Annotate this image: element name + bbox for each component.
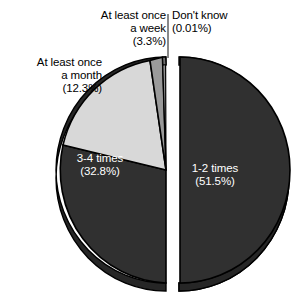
label-value: (0.01%) bbox=[172, 22, 282, 35]
label-at-least-once-a-month: At least once a month (12.3%) bbox=[6, 56, 102, 96]
label-value: (12.3%) bbox=[6, 82, 102, 95]
slice-top-bevel bbox=[163, 57, 167, 65]
label-line: a week bbox=[82, 22, 166, 35]
label-at-least-once-a-week: At least once a week (3.3%) bbox=[82, 9, 166, 49]
label-line: 3-4 times bbox=[42, 152, 158, 165]
label-line: Don't know bbox=[172, 9, 282, 22]
label-value: (32.8%) bbox=[42, 165, 158, 178]
label-value: (3.3%) bbox=[82, 35, 166, 48]
label-dont-know: Don't know (0.01%) bbox=[172, 9, 282, 35]
label-one-two-times: 1-2 times (51.5%) bbox=[160, 162, 270, 188]
label-line: At least once bbox=[6, 56, 102, 69]
label-line: At least once bbox=[82, 9, 166, 22]
label-line: a month bbox=[6, 69, 102, 82]
pie-chart: At least once a month (12.3%) At least o… bbox=[0, 0, 299, 296]
label-value: (51.5%) bbox=[160, 175, 270, 188]
label-line: 1-2 times bbox=[160, 162, 270, 175]
label-three-four-times: 3-4 times (32.8%) bbox=[42, 152, 158, 178]
